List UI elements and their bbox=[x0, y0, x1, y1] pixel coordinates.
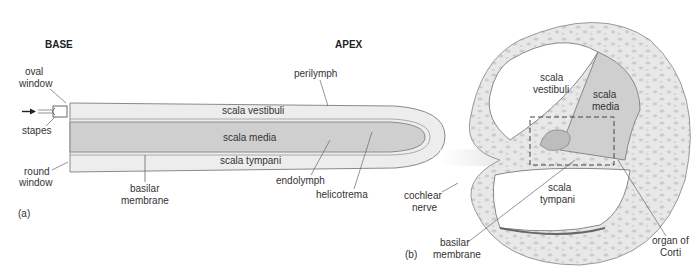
apex-label: APEX bbox=[335, 39, 363, 50]
base-label: BASE bbox=[45, 39, 73, 50]
b-scala-tympani-label: scala bbox=[548, 182, 572, 193]
organ-of-corti-label: organ of bbox=[652, 235, 689, 246]
stapes-label: stapes bbox=[22, 125, 51, 136]
svg-text:Corti: Corti bbox=[660, 247, 681, 258]
svg-text:nerve: nerve bbox=[412, 202, 437, 213]
b-scala-vestibuli-label: scala bbox=[540, 72, 564, 83]
endolymph-label: endolymph bbox=[276, 175, 325, 186]
svg-text:membrane: membrane bbox=[121, 195, 169, 206]
svg-text:tympani: tympani bbox=[540, 194, 575, 205]
svg-text:membrane: membrane bbox=[433, 249, 481, 260]
b-basilar-membrane-label: basilar bbox=[440, 237, 470, 248]
cochlea-diagram: BASE APEX oval window stapes round windo… bbox=[0, 0, 699, 279]
svg-text:window: window bbox=[18, 177, 53, 188]
oval-window-label: oval bbox=[25, 66, 43, 77]
oval-window-icon bbox=[53, 106, 67, 117]
panel-b: scala vestibuli scala media scala tympan… bbox=[404, 23, 690, 266]
scala-tympani-label: scala tympani bbox=[220, 155, 281, 166]
cochlear-nerve-label: cochlear bbox=[404, 190, 442, 201]
basilar-membrane-label: basilar bbox=[130, 183, 160, 194]
svg-text:media: media bbox=[592, 101, 620, 112]
svg-text:window: window bbox=[18, 78, 53, 89]
scala-media-label: scala media bbox=[223, 132, 277, 143]
helicotrema-label: helicotrema bbox=[316, 189, 368, 200]
panel-b-tag: (b) bbox=[405, 249, 417, 260]
scala-vestibuli-label: scala vestibuli bbox=[222, 105, 284, 116]
b-scala-media-label: scala bbox=[593, 89, 617, 100]
round-window-label: round bbox=[24, 166, 50, 177]
panel-a-tag: (a) bbox=[18, 208, 30, 219]
panel-a: BASE APEX oval window stapes round windo… bbox=[18, 39, 445, 219]
perilymph-label: perilymph bbox=[294, 68, 337, 79]
svg-text:vestibuli: vestibuli bbox=[533, 84, 569, 95]
